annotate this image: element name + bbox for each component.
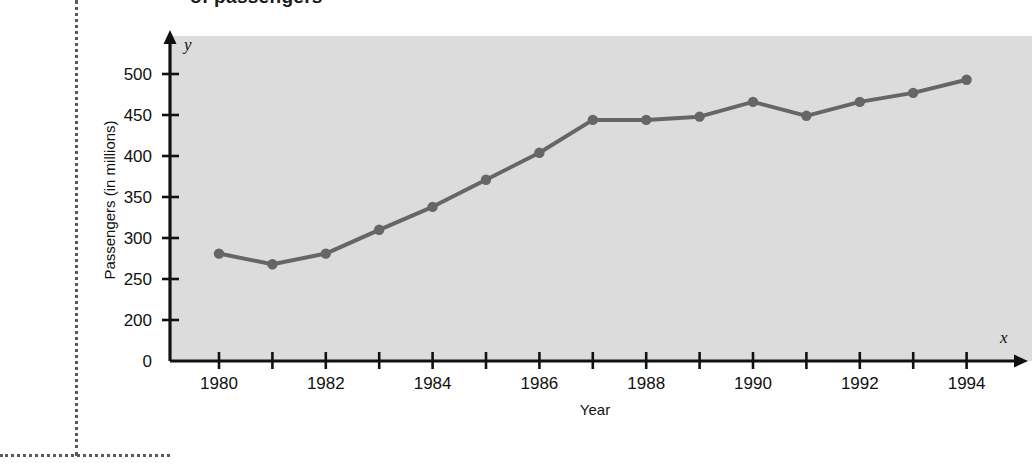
x-tick-label: 1994 <box>948 374 986 393</box>
x-axis-title: Year <box>580 401 610 418</box>
data-point-marker <box>855 97 865 107</box>
y-tick-label: 0 <box>143 352 152 371</box>
plot-area-background <box>170 36 1032 361</box>
x-tick-label: 1992 <box>841 374 879 393</box>
data-point-marker <box>694 111 704 121</box>
y-axis-tick-labels: 0200250300350400450500 <box>124 65 152 371</box>
line-chart-figure: 19801982198419861988199019921994 0200250… <box>0 0 1032 464</box>
data-point-marker <box>481 175 491 185</box>
x-tick-label: 1984 <box>414 374 452 393</box>
y-axis-title: Passengers (in millions) <box>101 120 118 279</box>
data-point-marker <box>641 115 651 125</box>
y-tick-label: 450 <box>124 106 152 125</box>
y-tick-label: 250 <box>124 270 152 289</box>
data-point-marker <box>374 225 384 235</box>
x-axis-name: x <box>999 328 1008 347</box>
x-tick-label: 1982 <box>307 374 345 393</box>
data-point-marker <box>534 148 544 158</box>
data-point-marker <box>214 248 224 258</box>
x-axis-tick-labels: 19801982198419861988199019921994 <box>200 374 985 393</box>
data-point-marker <box>961 75 971 85</box>
x-tick-label: 1990 <box>734 374 772 393</box>
y-tick-label: 400 <box>124 147 152 166</box>
y-tick-label: 200 <box>124 311 152 330</box>
data-point-marker <box>427 202 437 212</box>
data-point-marker <box>801 111 811 121</box>
chart-canvas: 19801982198419861988199019921994 0200250… <box>0 0 1032 464</box>
y-tick-label: 350 <box>124 188 152 207</box>
x-tick-label: 1986 <box>520 374 558 393</box>
y-axis-name: y <box>182 35 192 54</box>
y-tick-label: 500 <box>124 65 152 84</box>
x-tick-label: 1988 <box>627 374 665 393</box>
data-point-marker <box>588 115 598 125</box>
y-tick-label: 300 <box>124 229 152 248</box>
x-tick-label: 1980 <box>200 374 238 393</box>
data-point-marker <box>748 97 758 107</box>
data-point-marker <box>267 259 277 269</box>
data-point-marker <box>908 88 918 98</box>
data-point-marker <box>321 248 331 258</box>
